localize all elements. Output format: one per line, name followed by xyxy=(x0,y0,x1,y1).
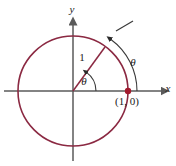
central-angle-group: θ xyxy=(81,72,96,91)
axes-group: x y xyxy=(4,3,171,161)
x-axis-label: x xyxy=(165,82,171,94)
terminal-side-radius xyxy=(73,47,105,91)
arc-length-theta-label: θ xyxy=(130,56,136,68)
point-1-0-label: (1, 0) xyxy=(115,95,139,108)
y-axis-label: y xyxy=(69,3,75,15)
arc-endpoint-tick xyxy=(116,21,133,31)
central-angle-arc xyxy=(87,72,96,91)
radius-group: 1 xyxy=(73,47,105,91)
unit-circle-svg: x y 1 θ (1, 0) θ xyxy=(0,0,176,166)
unit-circle-figure: x y 1 θ (1, 0) θ xyxy=(0,0,176,166)
radius-length-label: 1 xyxy=(79,51,85,63)
central-angle-theta-label: θ xyxy=(81,75,87,87)
point-1-0-dot xyxy=(125,88,131,94)
